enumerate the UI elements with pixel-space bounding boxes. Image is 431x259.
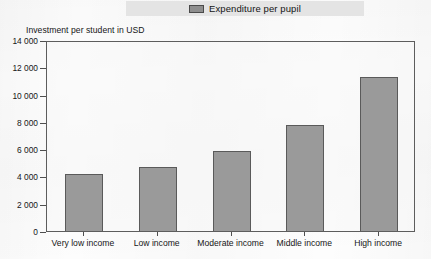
x-axis-tick-label: Middle income <box>267 238 341 248</box>
y-axis-tick <box>40 150 46 151</box>
x-axis-tick-label: Moderate income <box>194 238 268 248</box>
y-axis-tick <box>40 123 46 124</box>
x-axis-tick-label: High income <box>341 238 415 248</box>
y-axis-tick <box>40 68 46 69</box>
y-axis-tick-label-wrap: 2 000 <box>0 200 38 210</box>
x-axis-tick-label: Very low income <box>46 238 120 248</box>
y-axis-tick-label-wrap: 4 000 <box>0 172 38 182</box>
y-axis-tick-label-wrap: 6 000 <box>0 145 38 155</box>
bar <box>360 77 398 231</box>
y-axis-tick-label: 4 000 <box>0 172 38 182</box>
y-axis-tick-label-wrap: 14 000 <box>0 36 38 46</box>
y-axis-tick-label: 12 000 <box>0 63 38 73</box>
bar <box>65 174 103 231</box>
x-axis-tick <box>304 232 305 236</box>
y-axis-tick <box>40 177 46 178</box>
y-axis-tick-label-wrap: 10 000 <box>0 91 38 101</box>
bar <box>286 125 324 231</box>
legend-label: Expenditure per pupil <box>209 3 301 14</box>
y-axis-tick-label: 10 000 <box>0 91 38 101</box>
y-axis-tick-label: 0 <box>0 227 38 237</box>
y-axis-tick-label-wrap: 12 000 <box>0 63 38 73</box>
legend-swatch-icon <box>189 5 204 13</box>
y-axis-tick-label-wrap: 0 <box>0 227 38 237</box>
y-axis-tick-label: 2 000 <box>0 200 38 210</box>
chart-page: Expenditure per pupil Investment per stu… <box>0 0 431 259</box>
y-axis-tick-label: 6 000 <box>0 145 38 155</box>
x-axis-tick <box>378 232 379 236</box>
y-axis-tick <box>40 96 46 97</box>
bar <box>213 151 251 231</box>
y-axis-tick <box>40 232 46 233</box>
y-axis-tick-label: 14 000 <box>0 36 38 46</box>
y-axis-tick <box>40 205 46 206</box>
x-axis-tick-label: Low income <box>120 238 194 248</box>
x-axis-tick <box>83 232 84 236</box>
chart-legend: Expenditure per pupil <box>126 1 364 16</box>
y-axis-tick-label: 8 000 <box>0 118 38 128</box>
bar <box>139 167 177 231</box>
plot-area <box>46 41 415 232</box>
y-axis-tick-label-wrap: 8 000 <box>0 118 38 128</box>
y-axis-title: Investment per student in USD <box>26 25 144 35</box>
y-axis-tick <box>40 41 46 42</box>
x-axis-tick <box>157 232 158 236</box>
x-axis-tick <box>231 232 232 236</box>
